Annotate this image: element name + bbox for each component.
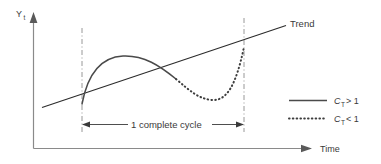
- x-axis-arrow-icon: [301, 145, 312, 153]
- cycle-span-arrow-left-icon: [82, 121, 90, 127]
- legend-contraction-symbol: C: [334, 114, 341, 124]
- legend-expansion-symbol: C: [334, 96, 341, 106]
- y-axis: [30, 12, 38, 149]
- y-axis-arrow-icon: [30, 12, 38, 23]
- legend-expansion-subscript: T: [341, 101, 345, 108]
- legend-entry-contraction: C T < 1: [289, 114, 359, 126]
- trend-line-group: [42, 26, 286, 108]
- trend-label: Trend: [290, 18, 314, 29]
- x-axis: [34, 145, 313, 153]
- cycle-contraction-curve: [176, 47, 244, 100]
- legend: C T > 1 C T < 1: [289, 96, 359, 126]
- cycle-span-label: 1 complete cycle: [131, 119, 202, 130]
- y-axis-label-subscript: t: [24, 14, 26, 21]
- legend-contraction-relation: < 1: [346, 114, 359, 124]
- y-axis-label: Y t: [16, 9, 26, 21]
- y-axis-label-symbol: Y: [16, 9, 22, 19]
- x-axis-label: Time: [320, 144, 340, 154]
- trend-line: [42, 26, 286, 108]
- cycle-span-arrow-right-icon: [236, 121, 244, 127]
- legend-entry-expansion: C T > 1: [289, 96, 359, 108]
- cycle-expansion-curve: [82, 56, 176, 104]
- business-cycle-chart: Y t Time Trend 1 complete cycle: [0, 0, 381, 164]
- legend-expansion-relation: > 1: [346, 96, 359, 106]
- cycle-span-annotation: 1 complete cycle: [82, 119, 244, 130]
- legend-contraction-subscript: T: [341, 119, 345, 126]
